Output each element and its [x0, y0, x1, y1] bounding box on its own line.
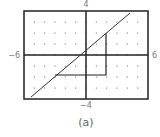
y-max-label: 4 [83, 0, 88, 9]
y-min-label: −4 [80, 101, 92, 110]
figure-caption: (a) [78, 116, 93, 129]
x-max-label: 6 [152, 51, 157, 60]
graph: 4 −4 −6 6 (a) [0, 0, 160, 137]
x-min-label: −6 [8, 51, 20, 60]
